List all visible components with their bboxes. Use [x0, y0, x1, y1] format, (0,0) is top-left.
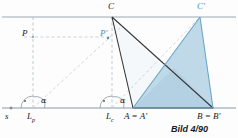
figure-caption: Bild 4/90: [171, 124, 208, 134]
label-a-equals-a-prime: A = A': [124, 112, 147, 121]
label-p-prime: P': [100, 29, 107, 38]
label-c-prime: C': [197, 2, 205, 11]
right-angle-arc-lc: [100, 96, 112, 108]
label-c: C: [108, 2, 114, 11]
right-angle-dot-lc: [103, 100, 105, 102]
label-alpha-right: α: [120, 97, 125, 105]
right-angle-arc-lp: [21, 96, 33, 108]
point-marker-p: [32, 36, 34, 38]
point-dot-s: [11, 108, 12, 109]
label-b-equals-b-prime: B = B': [197, 112, 221, 121]
geometry-figure: s Lp Lc P P' C C' A = A' B = B' α α Bild…: [0, 0, 238, 138]
label-lc: Lc: [106, 112, 114, 123]
label-alpha-left: α: [41, 97, 46, 105]
dashed-ray-lp-pprime: [33, 28, 120, 108]
label-lp: Lp: [27, 112, 35, 123]
label-s: s: [5, 112, 9, 121]
label-p: P: [22, 29, 28, 38]
right-angle-dot-lp: [24, 100, 26, 102]
